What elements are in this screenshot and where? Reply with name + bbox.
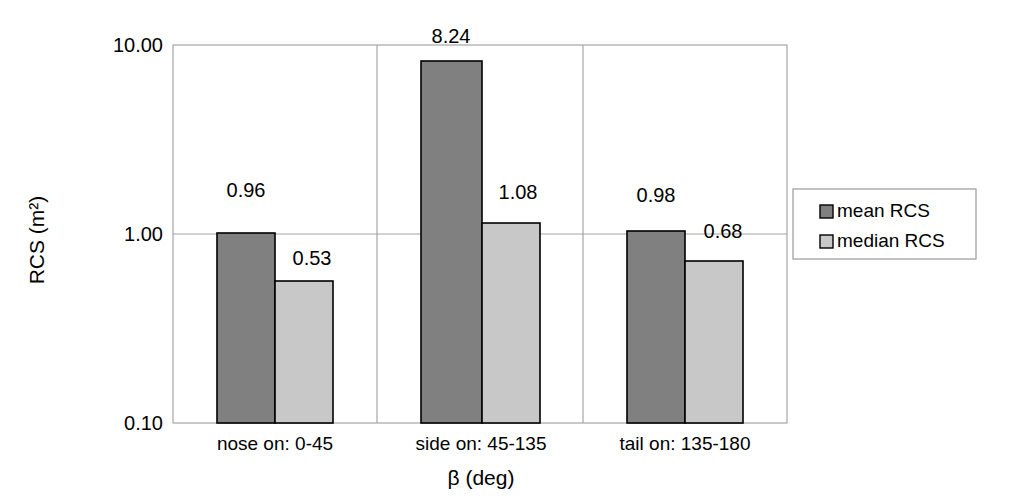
ytick-label-10: 10.00 [113,34,163,56]
legend-item-mean-rcs[interactable]: mean RCS [820,200,930,221]
ytick-label-0.1: 0.10 [124,412,163,434]
bar-median-tail-on [685,261,743,423]
bar-mean-nose-on [217,233,275,423]
bar-median-nose-on [275,281,333,423]
bar-median-side-on [482,223,540,423]
value-label-mean-tail-on: 0.98 [637,184,676,206]
legend-swatch-mean-icon [820,205,833,218]
legend-item-median-rcs[interactable]: median RCS [820,230,945,251]
category-label-tail-on: tail on: 135-180 [620,433,751,454]
bar-mean-side-on [421,61,482,423]
bar-mean-tail-on [627,231,685,423]
legend: mean RCS median RCS [793,189,976,259]
value-label-mean-side-on: 8.24 [432,25,471,47]
category-label-nose-on: nose on: 0-45 [217,433,333,454]
legend-label-median: median RCS [837,230,945,251]
x-axis-title: β (deg) [448,466,515,489]
legend-label-mean: mean RCS [837,200,930,221]
y-axis-title: RCS (m²) [25,196,48,285]
value-label-median-side-on: 1.08 [499,181,538,203]
category-label-side-on: side on: 45-135 [416,433,547,454]
ytick-label-1: 1.00 [124,223,163,245]
value-label-median-nose-on: 0.53 [293,247,332,269]
value-label-mean-nose-on: 0.96 [227,179,266,201]
chart-container: 10.00 1.00 0.10 RCS (m²) 0.96 0.53 8.24 … [0,0,1020,503]
rcs-bar-chart: 10.00 1.00 0.10 RCS (m²) 0.96 0.53 8.24 … [0,0,1020,503]
legend-swatch-median-icon [820,235,833,248]
value-label-median-tail-on: 0.68 [704,220,743,242]
